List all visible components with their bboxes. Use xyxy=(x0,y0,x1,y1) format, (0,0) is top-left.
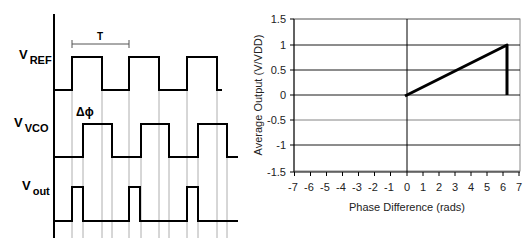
svg-text:0: 0 xyxy=(404,181,410,193)
svg-text:6: 6 xyxy=(500,181,506,193)
svg-text:0.5: 0.5 xyxy=(271,64,286,76)
signal-label-vout: Vout xyxy=(22,178,50,197)
svg-text:-3: -3 xyxy=(352,181,362,193)
svg-text:1: 1 xyxy=(420,181,426,193)
figure: T VREF Δϕ VVCO Vout xyxy=(0,0,532,249)
svg-text:7: 7 xyxy=(516,181,522,193)
timing-diagram: T VREF Δϕ VVCO Vout xyxy=(14,14,238,238)
svg-text:-5: -5 xyxy=(320,181,330,193)
svg-text:3: 3 xyxy=(452,181,458,193)
chart: 1.5 1 0.5 0 -0.5 -1 -1.5 -7 -6 -5 -4 -3 … xyxy=(252,13,522,213)
y-axis-title: Average Output (V/VDD) xyxy=(252,35,264,156)
x-tick-labels: -7 -6 -5 -4 -3 -2 -1 0 1 2 3 4 5 6 7 xyxy=(288,181,522,193)
svg-text:1: 1 xyxy=(280,39,286,51)
x-axis-title: Phase Difference (rads) xyxy=(349,201,465,213)
x-tick-marks xyxy=(295,172,520,176)
guide-lines xyxy=(72,90,227,238)
svg-text:-0.5: -0.5 xyxy=(267,114,286,126)
vco-waveform xyxy=(54,124,238,157)
svg-text:-4: -4 xyxy=(336,181,346,193)
period-label: T xyxy=(97,31,103,42)
svg-text:-1: -1 xyxy=(384,181,394,193)
svg-text:-7: -7 xyxy=(288,181,298,193)
phase-difference-label: Δϕ xyxy=(76,105,94,119)
y-tick-labels: 1.5 1 0.5 0 -0.5 -1 -1.5 xyxy=(267,13,286,178)
svg-text:-6: -6 xyxy=(304,181,314,193)
signal-label-vco: VVCO xyxy=(14,115,49,134)
svg-text:2: 2 xyxy=(436,181,442,193)
svg-text:4: 4 xyxy=(468,181,474,193)
signal-label-vref: VREF xyxy=(19,47,52,66)
svg-text:-1: -1 xyxy=(276,139,286,151)
svg-text:5: 5 xyxy=(484,181,490,193)
vout-waveform xyxy=(54,187,238,221)
y-tick-marks xyxy=(290,19,294,172)
vref-waveform xyxy=(54,57,222,90)
svg-text:-2: -2 xyxy=(368,181,378,193)
svg-text:0: 0 xyxy=(280,89,286,101)
svg-text:-1.5: -1.5 xyxy=(267,166,286,178)
svg-text:1.5: 1.5 xyxy=(271,13,286,25)
